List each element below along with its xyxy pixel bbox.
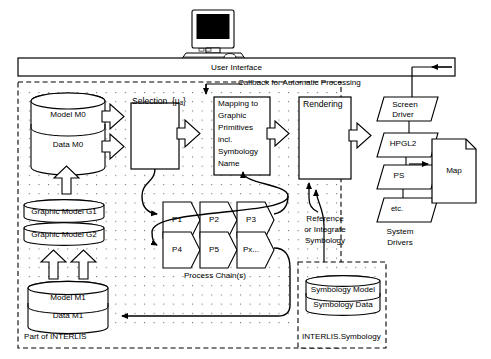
- process-mapping-line-3: incl.: [218, 136, 232, 144]
- datastore-m0: [31, 93, 105, 175]
- process-selection-label: Selection: [132, 97, 167, 106]
- process-chain-caption: Process Chain(s): [160, 272, 270, 280]
- process-rendering-label: Rendering: [303, 100, 343, 109]
- process-selection-box: [131, 103, 179, 169]
- datastore-m1: [28, 281, 108, 333]
- process-step-label-p2: P2: [200, 216, 228, 224]
- datastore-m0-row-1: Data M0: [31, 141, 105, 149]
- datastore-symbology-row-0: Symbology Model: [306, 286, 380, 294]
- process-mapping-line-1: Graphic: [218, 112, 246, 120]
- system-drivers-caption-line-0: System: [370, 228, 430, 236]
- container-label-interlis-symbology: INTERLIS.Symbology: [302, 333, 381, 341]
- output-map-label: Map: [432, 167, 476, 175]
- process-step-label-p3: P3: [237, 216, 265, 224]
- flow-arrow-rendering-to-drivers: [349, 123, 371, 148]
- datastore-g1-row-0: Graphic Model G1: [24, 208, 104, 216]
- symbology-note-line-1: or Integrate: [294, 226, 356, 234]
- callback-label: Callback for Automatic Processing: [238, 79, 361, 87]
- process-step-label-p5: P5: [200, 246, 228, 254]
- process-step-label-px: Px...: [236, 246, 266, 254]
- process-rendering-box: [299, 97, 351, 179]
- driver-label-screen-line-1: Driver: [376, 111, 430, 119]
- datastore-m1-row-1: Data M1: [28, 312, 108, 320]
- symbology-note-line-0: Reference: [294, 215, 356, 223]
- driver-label-etc: etc.: [370, 205, 424, 213]
- driver-label-hpgl2: HPGL2: [376, 140, 430, 148]
- process-selection-set: {μₐ}: [172, 97, 186, 106]
- process-mapping-line-2: Primitives: [218, 124, 253, 132]
- datastore-m1-row-0: Model M1: [28, 294, 108, 302]
- user-interface-label: User Interface: [18, 64, 455, 72]
- container-label-part-of-interlis: Part of INTERLIS: [24, 333, 87, 341]
- diagram-canvas: User Interface Callback for Automatic Pr…: [0, 0, 491, 359]
- process-mapping-line-4: Symbology: [218, 148, 258, 156]
- symbology-note-line-2: Symbology: [294, 237, 356, 245]
- system-drivers-caption-line-1: Drivers: [370, 239, 430, 247]
- datastore-symbology-row-1: Symbology Data: [306, 301, 380, 309]
- driver-label-screen-line-0: Screen: [378, 101, 432, 109]
- process-mapping-line-0: Mapping to: [218, 100, 258, 108]
- datastore-g2-row-0: Graphic Model G2: [24, 231, 104, 239]
- driver-label-ps: PS: [372, 172, 426, 180]
- process-mapping-line-5: Name: [218, 160, 240, 168]
- datastore-m0-row-0: Model M0: [31, 111, 105, 119]
- process-step-label-p4: P4: [163, 246, 191, 254]
- process-step-label-p1: P1: [163, 216, 191, 224]
